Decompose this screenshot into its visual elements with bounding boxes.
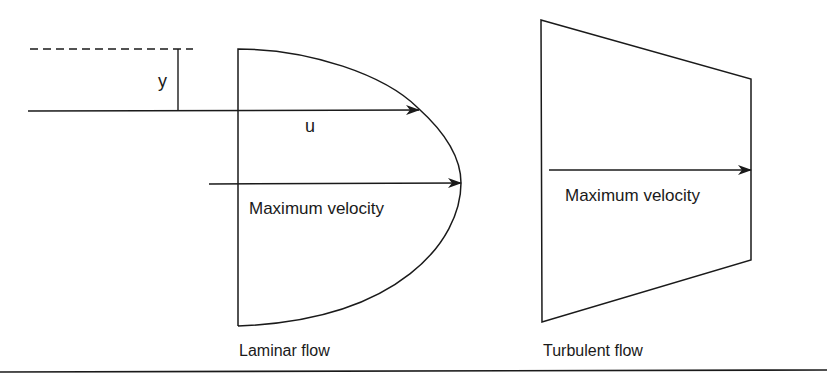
turbulent-max-velocity-label: Maximum velocity xyxy=(565,187,700,204)
laminar-max-velocity-label: Maximum velocity xyxy=(249,200,384,217)
laminar-parabolic-profile xyxy=(238,49,461,326)
laminar-max-velocity-arrow xyxy=(209,183,461,184)
velocity-profile-diagram xyxy=(0,0,829,380)
y-distance-label: y xyxy=(158,72,167,90)
laminar-flow-group xyxy=(28,49,461,326)
laminar-flow-caption: Laminar flow xyxy=(239,343,330,359)
turbulent-flow-group xyxy=(541,20,751,322)
u-velocity-arrow xyxy=(28,110,419,111)
u-velocity-label: u xyxy=(305,117,315,135)
turbulent-flow-caption: Turbulent flow xyxy=(543,343,643,359)
bottom-divider-rule xyxy=(0,370,827,372)
turbulent-flat-profile xyxy=(541,20,751,322)
